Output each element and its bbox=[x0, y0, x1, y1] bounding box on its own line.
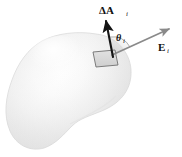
delta-A-subscript: i bbox=[126, 10, 128, 18]
E-subscript: i bbox=[167, 47, 169, 55]
physics-figure-svg: ΔA i θ i E i bbox=[0, 0, 182, 157]
delta-A-symbol: ΔA bbox=[99, 4, 114, 16]
surface-highlight bbox=[26, 36, 94, 88]
theta-subscript: i bbox=[123, 37, 125, 45]
area-element-patch bbox=[93, 50, 118, 67]
theta-symbol: θ bbox=[116, 32, 122, 43]
patch-surface bbox=[93, 50, 118, 67]
E-symbol: E bbox=[158, 41, 165, 53]
figure-root: ΔA i θ i E i bbox=[0, 0, 182, 157]
